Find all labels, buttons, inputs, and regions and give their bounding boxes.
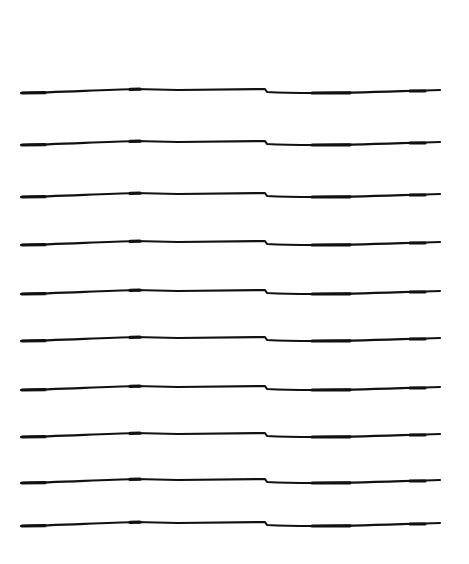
hand-drawn-line [21,193,440,197]
hand-drawn-line [21,241,440,245]
hand-drawn-line [21,522,440,526]
hand-drawn-line [21,433,440,437]
lined-illustration [0,0,469,564]
hand-drawn-line [21,290,440,294]
hand-drawn-line [21,141,440,145]
hand-drawn-line [21,89,440,93]
hand-drawn-line [21,386,440,390]
hand-drawn-line [21,337,440,341]
hand-drawn-line [21,479,440,483]
